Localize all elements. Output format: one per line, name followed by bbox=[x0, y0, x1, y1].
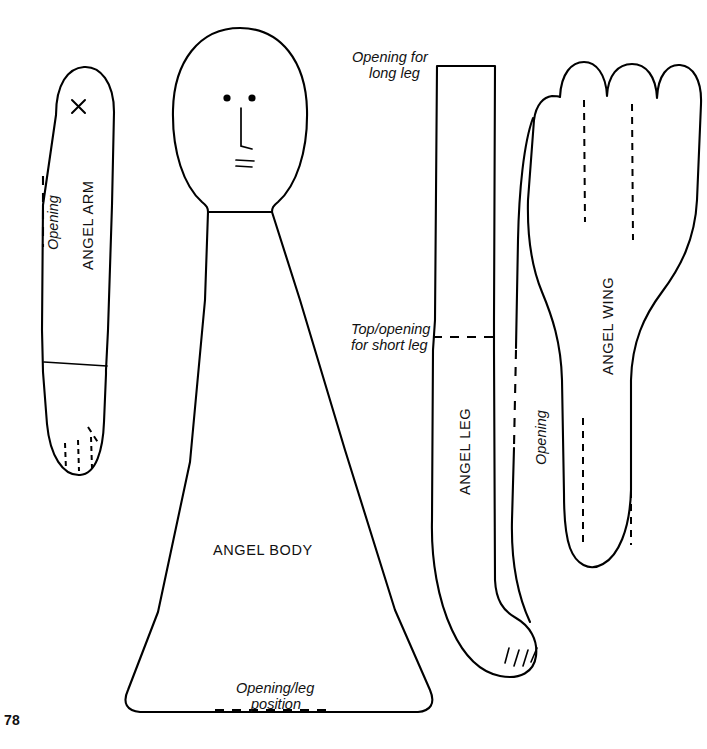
angel-body-eye-right-icon bbox=[248, 94, 255, 101]
angel-leg-short-opening-label-line1: Top/opening bbox=[351, 321, 430, 337]
angel-leg-outline bbox=[432, 66, 536, 677]
angel-arm-outline bbox=[42, 67, 114, 475]
angel-body-label: ANGEL BODY bbox=[213, 542, 313, 558]
pattern-sheet: Opening ANGEL ARM ANGEL BODY Opening/leg… bbox=[0, 0, 707, 749]
piece-angel-arm: Opening ANGEL ARM bbox=[42, 67, 114, 475]
angel-body-opening-label-line1: Opening/leg bbox=[236, 680, 314, 696]
angel-leg-short-opening-label-line2: for short leg bbox=[351, 337, 428, 353]
angel-body-opening-label-line2: position bbox=[250, 696, 301, 712]
angel-arm-opening-label: Opening bbox=[45, 195, 61, 250]
angel-body-eye-left-icon bbox=[223, 94, 230, 101]
piece-angel-wing: ANGEL WING bbox=[528, 62, 701, 567]
angel-leg-label: ANGEL LEG bbox=[457, 408, 473, 495]
angel-leg-long-opening-label-line1: Opening for bbox=[352, 49, 429, 65]
leg-back-edge-lower bbox=[512, 448, 530, 622]
angel-leg-side-opening-label: Opening bbox=[533, 410, 549, 465]
angel-wing-label: ANGEL WING bbox=[600, 277, 616, 375]
pattern-diagram: Opening ANGEL ARM ANGEL BODY Opening/leg… bbox=[0, 0, 707, 749]
angel-leg-side-opening-line bbox=[514, 350, 516, 446]
angel-body-outline bbox=[125, 28, 432, 712]
angel-leg-long-opening-label-line2: long leg bbox=[369, 65, 420, 81]
angel-arm-label: ANGEL ARM bbox=[80, 181, 96, 270]
piece-angel-body: ANGEL BODY Opening/leg position bbox=[125, 28, 432, 712]
page-number: 78 bbox=[4, 712, 20, 728]
